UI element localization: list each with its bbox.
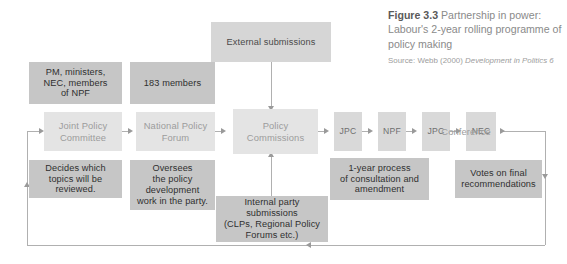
arrowhead-jpc-to-npf — [128, 128, 133, 134]
arrowhead-feedback-bottom-left — [306, 242, 311, 248]
figure-number: Figure 3.3 — [388, 9, 438, 21]
arrowhead-jpc1-to-npf — [368, 128, 373, 134]
figure-caption: Figure 3.3 Partnership in power: Labour'… — [388, 8, 564, 66]
node-internal-submissions: Internal party submissions (CLPs, Region… — [216, 196, 328, 242]
arrowhead-commissions-to-jpc1 — [324, 128, 329, 134]
arrowhead-feedback-right-down — [542, 174, 548, 179]
node-external-submissions: External submissions — [211, 22, 331, 62]
node-membership-jpc: PM, ministers, NEC, members of NPF — [29, 62, 122, 104]
node-membership-npf: 183 members — [130, 62, 215, 104]
figure-source: Source: Webb (2000) Development in Polit… — [388, 56, 564, 66]
connector-feedback-bottom — [27, 245, 545, 246]
connector-internal-to-commissions — [271, 152, 272, 196]
arrowhead-conference-exit — [500, 128, 505, 134]
note-process: 1-year process of consultation and amend… — [330, 158, 429, 200]
connector-feedback-left-vertical — [27, 131, 28, 245]
node-stage-jpc-1: JPC — [334, 112, 362, 151]
figure-partnership-in-power: Figure 3.3 Partnership in power: Labour'… — [0, 0, 567, 264]
node-policy-commissions: Policy Commissions — [233, 109, 318, 154]
connector-external-to-commissions — [271, 62, 272, 110]
arrowhead-npf-to-jpc2 — [412, 128, 417, 134]
source-prefix: Source: Webb (2000) — [388, 56, 465, 65]
source-title: Development in Politics 6 — [465, 56, 554, 65]
node-stage-npf: NPF — [378, 112, 406, 151]
node-national-policy-forum: National Policy Forum — [136, 112, 215, 151]
note-conference: Votes on final recommendations — [455, 160, 542, 198]
node-joint-policy-committee: Joint Policy Committee — [44, 112, 122, 151]
connector-feedback-right-vertical — [545, 131, 546, 245]
note-national-policy-forum: Oversees the policy development work in … — [130, 160, 215, 210]
arrowhead-npf-to-commissions — [221, 128, 226, 134]
note-joint-policy-committee: Decides which topics will be reviewed. — [29, 160, 122, 198]
connector-conference-to-right — [500, 131, 545, 132]
